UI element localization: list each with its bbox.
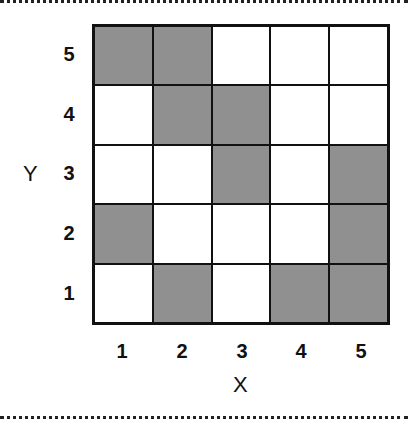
cell-x3-y4 — [212, 85, 271, 144]
cell-x1-y3 — [94, 145, 153, 204]
cell-x2-y5 — [153, 26, 212, 85]
cell-x3-y2 — [212, 204, 271, 263]
cell-x2-y4 — [153, 85, 212, 144]
cell-x4-y4 — [270, 85, 329, 144]
cell-x1-y1 — [94, 264, 153, 323]
cell-x5-y4 — [329, 85, 388, 144]
x-axis-label: X — [233, 372, 248, 398]
top-dotted-border — [0, 0, 408, 3]
x-tick-2: 2 — [167, 340, 197, 363]
cell-x4-y3 — [270, 145, 329, 204]
cell-x3-y3 — [212, 145, 271, 204]
y-tick-2: 2 — [58, 222, 80, 245]
cell-x4-y5 — [270, 26, 329, 85]
grid — [92, 24, 390, 325]
y-tick-4: 4 — [58, 103, 80, 126]
cell-x5-y5 — [329, 26, 388, 85]
bottom-dotted-border — [0, 416, 408, 419]
cell-x1-y2 — [94, 204, 153, 263]
y-tick-5: 5 — [58, 43, 80, 66]
cell-x4-y1 — [270, 264, 329, 323]
cell-x1-y4 — [94, 85, 153, 144]
cell-x1-y5 — [94, 26, 153, 85]
x-tick-5: 5 — [346, 340, 376, 363]
cell-x5-y1 — [329, 264, 388, 323]
cell-x4-y2 — [270, 204, 329, 263]
cell-x2-y2 — [153, 204, 212, 263]
y-axis-label: Y — [23, 161, 38, 187]
cell-x3-y5 — [212, 26, 271, 85]
y-tick-3: 3 — [58, 162, 80, 185]
cell-x2-y1 — [153, 264, 212, 323]
y-tick-1: 1 — [58, 282, 80, 305]
cell-x5-y3 — [329, 145, 388, 204]
cell-x2-y3 — [153, 145, 212, 204]
x-tick-4: 4 — [286, 340, 316, 363]
x-tick-1: 1 — [107, 340, 137, 363]
cell-x3-y1 — [212, 264, 271, 323]
x-tick-3: 3 — [227, 340, 257, 363]
cell-x5-y2 — [329, 204, 388, 263]
